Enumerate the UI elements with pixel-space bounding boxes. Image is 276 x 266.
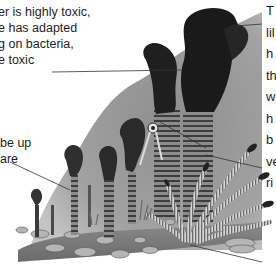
caption-line: h (266, 108, 276, 130)
caption-line: e toxic (0, 52, 90, 68)
caption-toxic-water: er is highly toxic, e has adapted g on b… (0, 4, 90, 68)
caption-line: ve (266, 151, 276, 173)
caption-line: er is highly toxic, (0, 4, 90, 20)
caption-right-cropped: T lil h th w h b ve ri (266, 0, 276, 194)
caption-line: b (266, 129, 276, 151)
caption-line: e has adapted (0, 20, 90, 36)
caption-line: be up (0, 135, 31, 151)
caption-line: g on bacteria, (0, 36, 90, 52)
caption-line: w (266, 86, 276, 108)
caption-line: T (266, 0, 276, 22)
hydrothermal-vent-illustration: er is highly toxic, e has adapted g on b… (0, 0, 276, 266)
caption-chimney-height: be up are (0, 135, 31, 167)
caption-line: ri (266, 172, 276, 194)
caption-line: h (266, 43, 276, 65)
caption-line: th (266, 65, 276, 87)
caption-line: are (0, 151, 31, 167)
caption-line: lil (266, 22, 276, 44)
